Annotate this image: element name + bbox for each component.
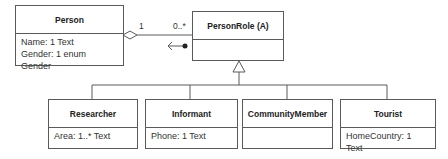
class-personrole[interactable]: PersonRole (A) — [192, 11, 284, 61]
generalization-triangle-icon — [233, 61, 245, 72]
class-name: PersonRole (A) — [193, 12, 283, 40]
class-name: Researcher — [49, 100, 137, 128]
attribute: Gender: 1 enum Gender — [21, 48, 118, 72]
class-name: Person — [16, 6, 123, 34]
attribute: HomeCountry: 1 Text — [346, 130, 430, 154]
attribute: Area: 1..* Text — [54, 130, 132, 142]
attribute: Name: 1 Text — [21, 36, 118, 48]
class-person[interactable]: Person Name: 1 Text Gender: 1 enum Gende… — [15, 5, 124, 66]
attribute: Phone: 1 Text — [151, 130, 232, 142]
class-informant[interactable]: Informant Phone: 1 Text — [145, 99, 238, 149]
class-name: Informant — [146, 100, 237, 128]
class-communitymember[interactable]: CommunityMember — [242, 99, 333, 149]
multiplicity-person: 1 — [139, 21, 144, 31]
class-name: CommunityMember — [243, 100, 332, 128]
class-tourist[interactable]: Tourist HomeCountry: 1 Text — [340, 99, 436, 149]
reading-direction-dot-icon — [183, 44, 188, 49]
multiplicity-personrole: 0..* — [173, 21, 186, 31]
aggregation-diamond-icon — [123, 31, 137, 39]
class-researcher[interactable]: Researcher Area: 1..* Text — [48, 99, 138, 149]
class-name: Tourist — [341, 100, 435, 128]
